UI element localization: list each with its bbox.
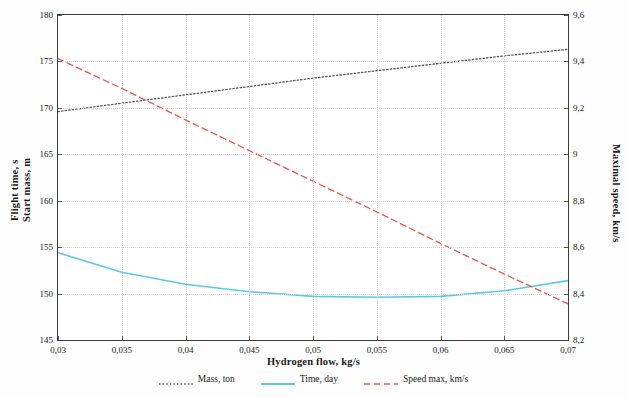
- gridline-horizontal: [58, 108, 568, 109]
- x-axis-tick-label: 0,07: [560, 345, 576, 355]
- y-axis-right-tick: [564, 201, 568, 202]
- gridline-vertical: [313, 15, 314, 340]
- gridline-horizontal: [58, 247, 568, 248]
- y-axis-right-tick-label: 8,2: [573, 335, 584, 345]
- legend-entry: Mass, ton: [159, 374, 235, 384]
- y-axis-right-tick: [564, 154, 568, 155]
- x-axis-tick: [122, 336, 123, 340]
- gridline-vertical: [122, 15, 123, 340]
- y-axis-right-tick-label: 8,4: [573, 289, 584, 299]
- gridline-horizontal: [58, 201, 568, 202]
- y-axis-right-tick: [564, 15, 568, 16]
- y-axis-right-tick: [564, 340, 568, 341]
- legend-label: Time, day: [300, 374, 338, 384]
- gridline-vertical: [504, 15, 505, 340]
- x-axis-tick: [441, 336, 442, 340]
- y-axis-right-tick-label: 8,8: [573, 196, 584, 206]
- legend-label: Speed max, km/s: [403, 374, 468, 384]
- plot-area: [57, 14, 569, 341]
- y-axis-left-tick: [58, 61, 62, 62]
- y-axis-left-tick-labels: 145150155160165170175180: [24, 14, 53, 341]
- y-axis-right-tick: [564, 61, 568, 62]
- x-axis-tick-label: 0,05: [305, 345, 321, 355]
- y-axis-right-tick-label: 9,4: [573, 56, 584, 66]
- y-axis-left-tick-label: 160: [40, 196, 54, 206]
- y-axis-left-tick: [58, 108, 62, 109]
- x-axis-tick-label: 0,035: [112, 345, 132, 355]
- chart-legend: Mass, tonTime, daySpeed max, km/s: [0, 374, 627, 384]
- y-axis-left-tick: [58, 294, 62, 295]
- gridline-horizontal: [58, 154, 568, 155]
- x-axis-tick: [568, 336, 569, 340]
- gridline-vertical: [249, 15, 250, 340]
- gridline-vertical: [441, 15, 442, 340]
- y-axis-left-tick-label: 170: [40, 103, 54, 113]
- y-axis-right-tick-labels: 8,28,48,68,899,29,49,6: [573, 14, 603, 341]
- y-axis-right-tick-label: 9,6: [573, 10, 584, 20]
- legend-entry: Time, day: [261, 374, 338, 384]
- y-axis-left-tick: [58, 154, 62, 155]
- gridline-horizontal: [58, 61, 568, 62]
- y-axis-left-tick-label: 180: [40, 10, 54, 20]
- x-axis-tick: [186, 336, 187, 340]
- x-axis-tick: [377, 336, 378, 340]
- x-axis-tick: [249, 336, 250, 340]
- y-axis-right-tick: [564, 108, 568, 109]
- y-axis-left-tick: [58, 247, 62, 248]
- y-axis-right-tick-label: 9: [573, 149, 578, 159]
- chart-container: Flight time, s Start mass, m Maximal spe…: [0, 0, 627, 398]
- x-axis-tick: [313, 336, 314, 340]
- x-axis-tick-label: 0,065: [494, 345, 514, 355]
- y-axis-left-tick: [58, 15, 62, 16]
- x-axis-tick-label: 0,045: [239, 345, 259, 355]
- y-axis-left-tick-label: 175: [40, 56, 54, 66]
- y-axis-right-tick-label: 8,6: [573, 242, 584, 252]
- y-axis-left-tick-label: 165: [40, 149, 54, 159]
- gridline-vertical: [568, 15, 569, 340]
- y-axis-left-tick-label: 150: [40, 289, 54, 299]
- gridline-vertical: [186, 15, 187, 340]
- y-axis-left-tick-label: 145: [40, 335, 54, 345]
- legend-entry: Speed max, km/s: [364, 374, 468, 384]
- x-axis-tick-label: 0,03: [50, 345, 66, 355]
- gridline-vertical: [377, 15, 378, 340]
- x-axis-tick-labels: 0,030,0350,040,0450,050,0550,060,0650,07: [57, 344, 569, 358]
- y-axis-right-tick-label: 9,2: [573, 103, 584, 113]
- y-axis-left-tick: [58, 201, 62, 202]
- y-axis-left-tick-label: 155: [40, 242, 54, 252]
- x-axis-tick-label: 0,06: [433, 345, 449, 355]
- y-axis-right-tick: [564, 247, 568, 248]
- y-axis-right-tick: [564, 294, 568, 295]
- legend-label: Mass, ton: [198, 374, 235, 384]
- y-axis-right-title: Maximal speed, km/s: [607, 118, 623, 268]
- x-axis-tick-label: 0,04: [178, 345, 194, 355]
- gridline-horizontal: [58, 294, 568, 295]
- x-axis-tick: [504, 336, 505, 340]
- x-axis-tick-label: 0,055: [367, 345, 387, 355]
- y-axis-left-tick: [58, 340, 62, 341]
